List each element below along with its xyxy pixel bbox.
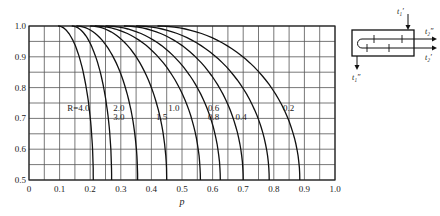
y-tick-label: 1.0 <box>15 21 27 31</box>
curve-label: 1.5 <box>156 112 168 122</box>
curve-label: 2.0 <box>113 103 125 113</box>
u-tube <box>358 39 433 48</box>
x-tick-label: 0.8 <box>268 184 280 194</box>
y-tick-label: 0.9 <box>15 52 27 62</box>
heat-exchanger-diagram: t₁′ t₂″ t₂′ t₁″ <box>352 7 437 82</box>
t2-out-label: t₂″ <box>425 27 434 36</box>
x-tick-label: 0.4 <box>146 184 158 194</box>
t1-out-label: t₁″ <box>352 73 361 82</box>
curve-labels: R=4.03.02.01.51.00.80.60.40.2 <box>67 103 294 122</box>
curve-label: 0.8 <box>208 112 220 122</box>
t1-out-arrow-icon <box>355 65 360 70</box>
curve-label: R=4.0 <box>67 103 90 113</box>
x-tick-label: 0.6 <box>207 184 219 194</box>
t1-in-label: t₁′ <box>397 7 404 16</box>
y-tick-label: 0.5 <box>15 175 27 185</box>
curve-label: 3.0 <box>113 112 125 122</box>
x-tick-label: 0.3 <box>115 184 127 194</box>
x-tick-labels: 00.10.20.30.40.50.60.70.80.91.0 <box>27 184 341 194</box>
x-tick-label: 0.1 <box>54 184 65 194</box>
curve-label: 0.4 <box>236 112 248 122</box>
y-tick-label: 0.8 <box>15 83 27 93</box>
x-axis-label: p <box>179 196 185 207</box>
x-tick-label: 0.5 <box>176 184 188 194</box>
t1-in-arrow-icon <box>406 25 411 30</box>
y-tick-label: 0.7 <box>15 113 27 123</box>
x-tick-label: 1.0 <box>329 184 341 194</box>
x-tick-label: 0.7 <box>238 184 250 194</box>
t2-in-arrow-icon <box>432 46 437 51</box>
y-tick-labels: 0.50.60.70.80.91.0 <box>15 21 27 185</box>
x-tick-label: 0.9 <box>299 184 311 194</box>
curve-label: 1.0 <box>168 103 180 113</box>
curve-label: 0.6 <box>208 103 220 113</box>
t2-in-label: t₂′ <box>425 53 432 62</box>
curve-label: 0.2 <box>283 103 294 113</box>
shell <box>352 30 414 56</box>
x-tick-label: 0.2 <box>85 184 96 194</box>
x-tick-label: 0 <box>27 184 32 194</box>
chart: 00.10.20.30.40.50.60.70.80.91.0 0.50.60.… <box>0 0 440 216</box>
t2-out-arrow-icon <box>432 37 437 42</box>
y-tick-label: 0.6 <box>15 144 27 154</box>
